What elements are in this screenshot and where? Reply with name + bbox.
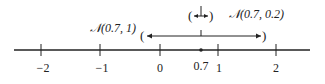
narrow-interval-label: 𝒩(0.7, 0.2) bbox=[229, 7, 284, 21]
tick-label-1: 1 bbox=[216, 61, 222, 75]
number-line-diagram: −2 −1 0 1 2 0.7 ( ) 𝒩(0.7, 1) ( ) 𝒩(0.7,… bbox=[0, 0, 325, 84]
arrow-right-icon bbox=[204, 14, 208, 18]
arrow-right-icon bbox=[256, 34, 261, 39]
point-marker bbox=[199, 48, 203, 52]
narrow-interval: ( ) bbox=[188, 6, 213, 23]
wide-interval: ( ) bbox=[140, 28, 266, 43]
narrow-interval-open-paren: ( bbox=[188, 8, 192, 23]
arrow-left-icon bbox=[194, 14, 198, 18]
wide-interval-close-paren: ) bbox=[262, 28, 266, 43]
tick-label-0: 0 bbox=[157, 61, 163, 75]
point-label: 0.7 bbox=[194, 59, 209, 73]
tick-label-minus-1: −1 bbox=[96, 61, 109, 75]
wide-interval-label: 𝒩(0.7, 1) bbox=[90, 21, 136, 35]
arrow-left-icon bbox=[147, 34, 152, 39]
wide-interval-open-paren: ( bbox=[140, 28, 144, 43]
tick-label-minus-2: −2 bbox=[37, 61, 50, 75]
tick-label-2: 2 bbox=[273, 61, 279, 75]
narrow-interval-close-paren: ) bbox=[209, 8, 213, 23]
